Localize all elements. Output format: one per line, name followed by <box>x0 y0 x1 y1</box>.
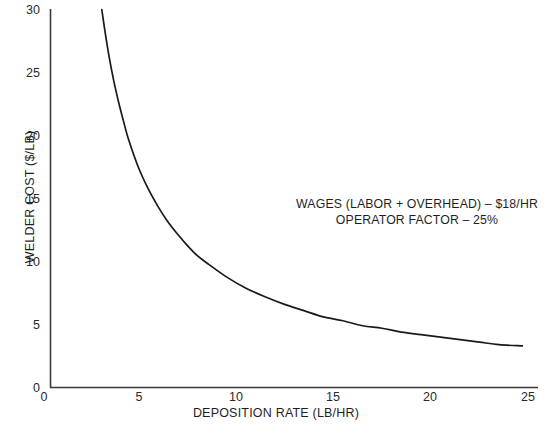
x-tick-10: 10 <box>216 390 256 404</box>
x-tick-25: 25 <box>508 390 548 404</box>
bottom-caption-artifact <box>4 418 234 429</box>
y-axis-title: WELDER COST ($/LB) <box>23 97 37 297</box>
x-tick-0: 0 <box>24 390 64 404</box>
welder-cost-chart: 30 25 20 15 10 5 0 0 5 10 15 20 25 DEPOS… <box>0 0 552 429</box>
x-tick-5: 5 <box>119 390 159 404</box>
y-tick-5: 5 <box>0 318 40 332</box>
x-tick-15: 15 <box>313 390 353 404</box>
annotation-line-operator-factor: OPERATOR FACTOR – 25% <box>292 212 542 228</box>
cost-curve <box>102 10 523 346</box>
annotation-line-wages: WAGES (LABOR + OVERHEAD) – $18/HR <box>292 196 542 212</box>
y-tick-25: 25 <box>0 66 40 80</box>
y-tick-30: 30 <box>0 3 40 17</box>
x-tick-20: 20 <box>410 390 450 404</box>
chart-annotation: WAGES (LABOR + OVERHEAD) – $18/HR OPERAT… <box>292 196 542 228</box>
